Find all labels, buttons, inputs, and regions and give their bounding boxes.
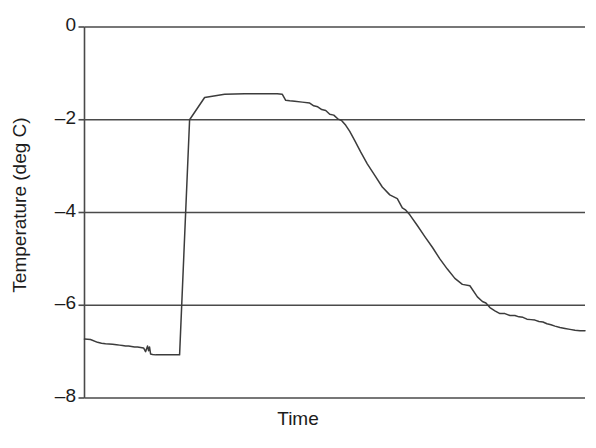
chart-figure: Temperature (deg C) Time 0–2–4–6–8: [0, 0, 596, 448]
x-axis-label: Time: [0, 408, 596, 430]
gridlines-group: [85, 27, 586, 398]
y-tick-label-holder: 0: [28, 14, 76, 36]
y-axis-ticks: [79, 27, 85, 398]
temperature-series-line: [85, 94, 586, 355]
y-tick-label-holder: –8: [28, 385, 76, 407]
y-tick-label-holder: –6: [28, 292, 76, 314]
y-tick-label: 0: [32, 14, 76, 36]
temperature-time-line-chart: [0, 0, 596, 448]
y-tick-label-holder: –2: [28, 107, 76, 129]
y-tick-label: –6: [32, 292, 76, 314]
y-tick-label: –2: [32, 107, 76, 129]
y-tick-label: –8: [32, 385, 76, 407]
y-tick-label-holder: –4: [28, 200, 76, 222]
y-tick-label: –4: [32, 200, 76, 222]
